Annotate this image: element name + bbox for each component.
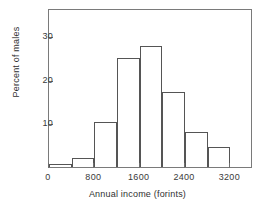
x-tick-mark [139,163,140,168]
histogram-bar [140,46,163,167]
histogram-bar [185,132,208,167]
x-tick-mark [93,163,94,168]
y-tick-label: 30 [42,31,53,41]
x-axis-title: Annual income (forints) [0,189,275,199]
x-tick-label: 3200 [219,172,240,182]
x-tick-label: 800 [85,172,101,182]
x-tick-label: 1600 [128,172,149,182]
histogram-bar [49,164,72,167]
y-axis-title: Percent of males [11,2,21,122]
histogram-figure: 102030 0800160024003200 Annual income (f… [0,0,275,211]
histogram-bar [72,158,95,167]
bars-layer [49,10,251,167]
x-tick-mark [229,163,230,168]
x-tick-mark [184,163,185,168]
x-tick-label: 2400 [173,172,194,182]
y-tick-label: 20 [42,75,53,85]
histogram-bar [117,58,140,167]
histogram-bar [94,122,117,167]
x-tick-label: 0 [45,172,50,182]
y-tick-label: 10 [42,118,53,128]
x-tick-mark [48,163,49,168]
plot-area [48,9,252,168]
histogram-bar [208,147,231,167]
histogram-bar [162,92,185,167]
